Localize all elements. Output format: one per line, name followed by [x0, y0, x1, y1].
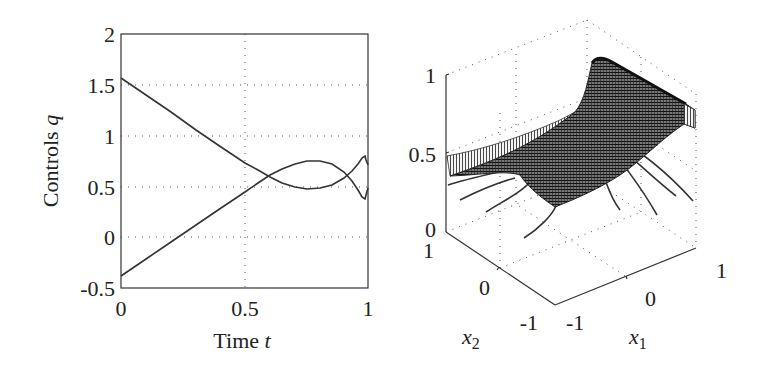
x2tick: 1	[423, 238, 434, 263]
xtick: 0.5	[231, 296, 259, 321]
x2-axis-label: x2	[461, 324, 480, 352]
x1-tick-labels: -1 0 1	[566, 258, 727, 335]
left-line-chart: 2 1.5 1 0.5 0 -0.5 0 0.5 1 Time t Contro…	[38, 22, 374, 353]
y-tick-labels: 2 1.5 1 0.5 0 -0.5	[80, 22, 115, 301]
xtick: 0	[116, 296, 127, 321]
surface-mesh	[450, 58, 695, 207]
ytick: 1	[104, 124, 115, 149]
xtick: 1	[363, 296, 374, 321]
ytick: 0	[104, 225, 115, 250]
ytick: -0.5	[80, 276, 115, 301]
x2-tick-labels: 1 0 -1	[423, 238, 538, 335]
ytick: 2	[104, 22, 115, 47]
figure: 2 1.5 1 0.5 0 -0.5 0 0.5 1 Time t Contro…	[0, 0, 758, 369]
x2tick: 0	[479, 275, 490, 300]
ytick: 0.5	[88, 175, 116, 200]
x1tick: 1	[716, 258, 727, 283]
right-surface-chart: 1 0.5 0 1 0 -1 -1 0 1 x2 x1	[409, 20, 728, 352]
x1tick: -1	[566, 310, 584, 335]
x-tick-labels: 0 0.5 1	[116, 296, 374, 321]
z-tick-labels: 1 0.5 0	[409, 63, 437, 242]
series-q1	[121, 78, 368, 189]
y-axis-label: Controls q	[38, 115, 63, 207]
surface-right-edge	[684, 104, 695, 128]
x1tick: 0	[645, 286, 656, 311]
x-axis-label: Time t	[213, 328, 271, 353]
ytick: 1.5	[88, 73, 116, 98]
ztick: 1	[425, 63, 436, 88]
ztick: 0.5	[409, 142, 437, 167]
x2tick: -1	[520, 310, 538, 335]
x1-axis-label: x1	[628, 324, 647, 352]
